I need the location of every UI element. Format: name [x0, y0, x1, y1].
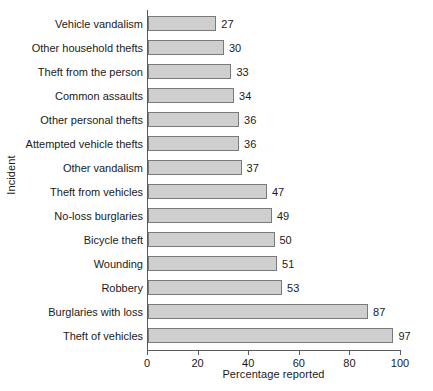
- category-label: Attempted vehicle thefts: [13, 132, 143, 156]
- x-axis-title: Percentage reported: [147, 368, 400, 380]
- bar-value-label: 37: [242, 156, 259, 180]
- bar: [148, 136, 239, 151]
- bar: [148, 280, 282, 295]
- x-tick: [299, 350, 300, 355]
- bar-row: Other vandalism37: [147, 156, 400, 180]
- bar-value-label: 49: [272, 204, 289, 228]
- bar: [148, 64, 231, 79]
- bar: [148, 232, 275, 247]
- category-label: Common assaults: [13, 84, 143, 108]
- category-label: Bicycle theft: [13, 228, 143, 252]
- x-tick: [147, 350, 148, 355]
- bar: [148, 160, 242, 175]
- bar-value-label: 33: [231, 60, 248, 84]
- category-label: Wounding: [13, 252, 143, 276]
- bar-row: Wounding51: [147, 252, 400, 276]
- bar-row: Theft of vehicles97: [147, 324, 400, 348]
- bar: [148, 304, 368, 319]
- category-label: Other household thefts: [13, 36, 143, 60]
- category-label: Burglaries with loss: [13, 300, 143, 324]
- bar: [148, 16, 216, 31]
- bar: [148, 88, 234, 103]
- bar-value-label: 34: [234, 84, 251, 108]
- plot-area: Vehicle vandalism27Other household theft…: [147, 10, 400, 350]
- category-label: No-loss burglaries: [13, 204, 143, 228]
- bar-value-label: 87: [368, 300, 385, 324]
- bar: [148, 112, 239, 127]
- bar-value-label: 51: [277, 252, 294, 276]
- bar: [148, 184, 267, 199]
- bar-row: Burglaries with loss87: [147, 300, 400, 324]
- bar-row: Theft from vehicles47: [147, 180, 400, 204]
- bar-row: Bicycle theft50: [147, 228, 400, 252]
- bar-value-label: 97: [393, 324, 410, 348]
- bar-value-label: 27: [216, 12, 233, 36]
- bar-value-label: 53: [282, 276, 299, 300]
- x-tick: [198, 350, 199, 355]
- x-tick: [400, 350, 401, 355]
- x-axis-line: [147, 350, 400, 351]
- bar-row: No-loss burglaries49: [147, 204, 400, 228]
- bar-row: Other household thefts30: [147, 36, 400, 60]
- bar: [148, 208, 272, 223]
- bar-row: Other personal thefts36: [147, 108, 400, 132]
- category-label: Other personal thefts: [13, 108, 143, 132]
- bar-row: Common assaults34: [147, 84, 400, 108]
- category-label: Theft from vehicles: [13, 180, 143, 204]
- category-label: Other vandalism: [13, 156, 143, 180]
- bar-value-label: 50: [275, 228, 292, 252]
- bar-value-label: 30: [224, 36, 241, 60]
- category-label: Theft of vehicles: [13, 324, 143, 348]
- bar-chart: Incident Vehicle vandalism27Other househ…: [0, 0, 433, 391]
- x-tick: [248, 350, 249, 355]
- category-label: Robbery: [13, 276, 143, 300]
- x-tick: [349, 350, 350, 355]
- category-label: Theft from the person: [13, 60, 143, 84]
- bar-row: Vehicle vandalism27: [147, 12, 400, 36]
- bar-value-label: 47: [267, 180, 284, 204]
- bar-row: Robbery53: [147, 276, 400, 300]
- bar: [148, 40, 224, 55]
- bar-value-label: 36: [239, 132, 256, 156]
- bar: [148, 328, 393, 343]
- bar-row: Theft from the person33: [147, 60, 400, 84]
- bar: [148, 256, 277, 271]
- bar-value-label: 36: [239, 108, 256, 132]
- category-label: Vehicle vandalism: [13, 12, 143, 36]
- bar-row: Attempted vehicle thefts36: [147, 132, 400, 156]
